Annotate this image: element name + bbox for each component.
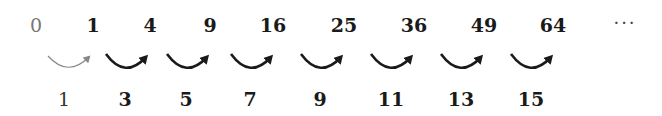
difference-3: 3: [118, 90, 131, 109]
arc-icon: [167, 54, 207, 68]
arc-icon: [511, 54, 551, 68]
arc-icon: [48, 56, 89, 67]
arc-icon: [106, 54, 146, 68]
arc-icon: [231, 54, 271, 68]
difference-13: 13: [448, 90, 474, 109]
step-arcs: [0, 0, 662, 116]
difference-5: 5: [179, 90, 192, 109]
difference-15: 15: [518, 90, 544, 109]
arc-icon: [301, 54, 341, 68]
difference-1: 1: [58, 90, 70, 109]
difference-11: 11: [378, 90, 404, 109]
arc-icon: [371, 54, 411, 68]
odd-number-square-diagram: 0 1 4 9 16 25 36 49 64 ··· 1 3 5 7 9 11 …: [0, 0, 662, 116]
arc-icon: [441, 54, 481, 68]
difference-9: 9: [313, 90, 326, 109]
difference-7: 7: [243, 90, 256, 109]
